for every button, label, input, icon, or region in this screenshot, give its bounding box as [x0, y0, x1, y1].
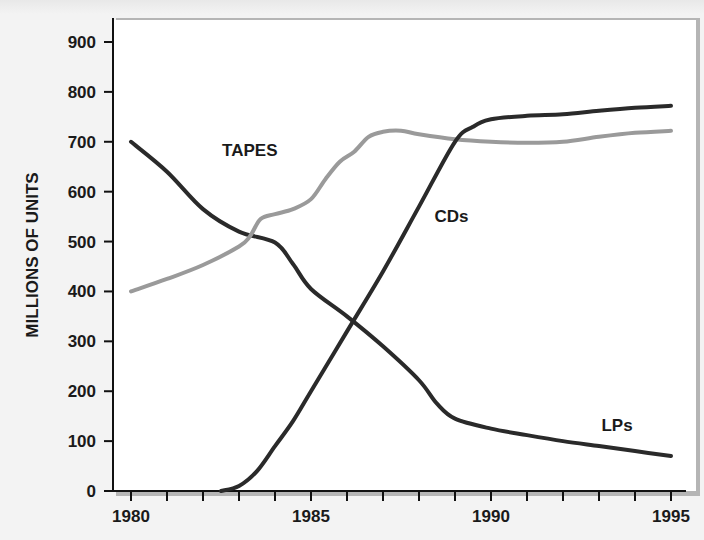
y-axis-label: MILLIONS OF UNITS	[23, 172, 42, 337]
line-chart: 0100200300400500600700800900 19801985199…	[0, 0, 704, 540]
y-tick-label: 900	[68, 33, 96, 52]
y-tick-label: 100	[68, 432, 96, 451]
y-axis-ticks: 0100200300400500600700800900	[68, 33, 113, 501]
y-tick-label: 0	[87, 482, 96, 501]
y-tick-label: 700	[68, 133, 96, 152]
series-label-tapes: TAPES	[222, 141, 277, 160]
y-tick-label: 600	[68, 183, 96, 202]
y-tick-label: 200	[68, 382, 96, 401]
series-label-cds: CDs	[434, 207, 468, 226]
x-tick-label: 1985	[292, 507, 330, 526]
y-tick-label: 800	[68, 83, 96, 102]
y-tick-label: 400	[68, 282, 96, 301]
x-tick-label: 1990	[472, 507, 510, 526]
x-tick-label: 1995	[652, 507, 690, 526]
y-tick-label: 500	[68, 233, 96, 252]
x-axis-ticks: 1980198519901995	[112, 491, 690, 526]
y-tick-label: 300	[68, 332, 96, 351]
chart-canvas: 0100200300400500600700800900 19801985199…	[0, 0, 704, 540]
series-label-lps: LPs	[601, 416, 632, 435]
x-tick-label: 1980	[112, 507, 150, 526]
